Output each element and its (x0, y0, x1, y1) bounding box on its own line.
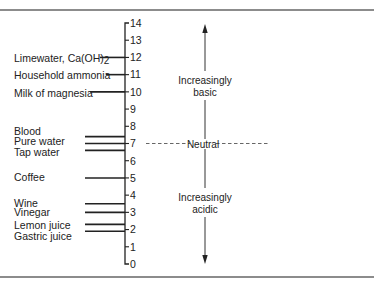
arrow-down-icon (202, 255, 207, 264)
axis-tick-label: 7 (130, 137, 136, 149)
axis-tick-label: 14 (130, 17, 142, 29)
substance-item: Household ammonia (14, 69, 125, 81)
axis-tick-label: 1 (130, 241, 136, 253)
substance-list: Limewater, Ca(OH)2Household ammoniaMilk … (14, 52, 125, 243)
axis-tick-label: 12 (130, 51, 142, 63)
axis-tick-label: 10 (130, 86, 142, 98)
axis-tick-label: 3 (130, 206, 136, 218)
neutral-label: Neutral (187, 139, 219, 150)
substance-item: Tap water (14, 146, 125, 158)
substance-label: Household ammonia (14, 69, 110, 81)
neutral-line: Neutral (146, 137, 270, 150)
arrow-up-icon (202, 24, 207, 33)
basic-label-line2: basic (193, 87, 216, 98)
substance-label: Vinegar (14, 206, 51, 218)
ph-scale-diagram: 01234567891011121314 Limewater, Ca(OH)2H… (0, 0, 380, 282)
increasingly-acidic-arrow: Increasingly acidic (178, 149, 231, 264)
substance-item: Gastric juice (14, 230, 125, 242)
substance-label: Milk of magnesia (14, 87, 93, 99)
substance-label: Tap water (14, 146, 60, 158)
acidic-label-line1: Increasingly (178, 192, 231, 203)
substance-label: Gastric juice (14, 230, 72, 242)
substance-subscript: 2 (104, 55, 110, 66)
basic-label-line1: Increasingly (178, 75, 231, 86)
substance-label: Coffee (14, 171, 45, 183)
substance-item: Coffee (14, 171, 125, 183)
ph-axis: 01234567891011121314 (125, 17, 142, 270)
increasingly-basic-arrow: Increasingly basic (178, 24, 231, 139)
axis-tick-label: 8 (130, 120, 136, 132)
substance-item: Milk of magnesia (14, 87, 125, 99)
substance-label: Lemon juice (14, 219, 71, 231)
axis-tick-label: 9 (130, 103, 136, 115)
substance-item: Lemon juice (14, 219, 125, 231)
substance-label: Limewater, Ca(OH)2 (14, 52, 110, 67)
axis-tick-label: 2 (130, 223, 136, 235)
substance-item: Limewater, Ca(OH)2 (14, 52, 125, 67)
axis-tick-label: 11 (130, 68, 141, 80)
axis-tick-label: 13 (130, 34, 142, 46)
acidic-label-line2: acidic (192, 204, 218, 215)
axis-tick-label: 0 (130, 258, 136, 270)
axis-tick-label: 5 (130, 172, 136, 184)
substance-item: Vinegar (14, 206, 125, 218)
axis-tick-label: 6 (130, 155, 136, 167)
axis-tick-label: 4 (130, 189, 136, 201)
